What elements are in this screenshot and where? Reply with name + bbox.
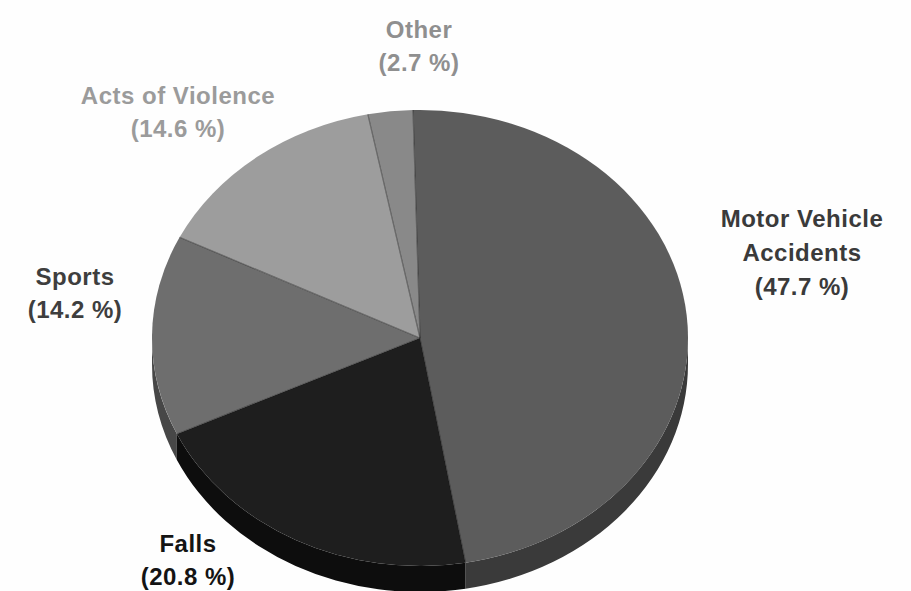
slice-label-pct: (14.2 %) [0,293,155,326]
pie-chart-figure: Other (2.7 %) Acts of Violence (14.6 %) … [0,0,911,591]
slice-label-name: Sports [0,260,155,293]
slice-label-acts-of-violence: Acts of Violence (14.6 %) [18,79,338,145]
slice-label-other: Other (2.7 %) [329,13,509,79]
slice-label-name: Falls [88,527,288,560]
slice-label-sports: Sports (14.2 %) [0,260,155,326]
slice-label-name: Accidents [692,236,911,270]
slice-label-pct: (47.7 %) [692,270,911,304]
slice-label-motor-vehicle-accidents: Motor Vehicle Accidents (47.7 %) [692,202,911,304]
slice-label-name: Motor Vehicle [692,202,911,236]
slice-label-pct: (20.8 %) [88,560,288,591]
slice-label-falls: Falls (20.8 %) [88,527,288,591]
slice-label-name: Acts of Violence [18,79,338,112]
slice-label-pct: (14.6 %) [18,112,338,145]
slice-label-name: Other [329,13,509,46]
slice-label-pct: (2.7 %) [329,46,509,79]
pie-slice-motor-vehicle-accidents [413,110,688,563]
